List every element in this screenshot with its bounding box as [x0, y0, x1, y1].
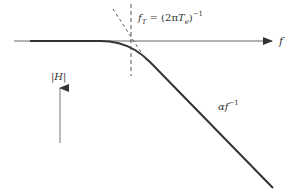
magnitude-response-curve — [30, 41, 273, 188]
frequency-axis-label: f — [278, 35, 285, 48]
bode-magnitude-diagram: f fT = (2πTe)−1 |H| αf−1 — [0, 0, 294, 196]
slope-label: αf−1 — [218, 99, 239, 112]
magnitude-axis-label: |H| — [51, 71, 66, 83]
corner-frequency-label: fT = (2πTe)−1 — [137, 10, 203, 26]
